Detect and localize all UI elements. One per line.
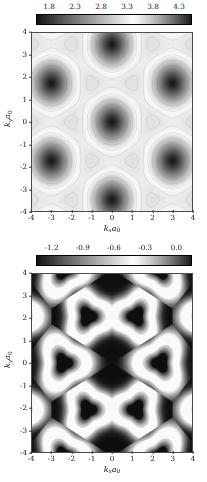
x-tick-label: 4 [191,454,196,464]
colorbar-ticklabels-bottom: -1.2-0.9-0.6-0.30.0 [36,242,192,254]
y-axis-label-bottom: kya0 [3,340,12,380]
heatmap-bottom [31,273,193,453]
x-tick-label: 2 [150,213,155,223]
y-tick-mark [29,453,32,454]
figure-panel-top: 1.82.32.83.33.84.3 -4-3-2-101234 43210-1… [0,0,207,241]
colorbar-tick-label: 0.0 [171,242,182,253]
colorbar-tick-label: -0.3 [138,242,152,253]
y-tick-mark [29,32,32,33]
y-tick-label: -3 [20,427,27,435]
y-tick-label: 1 [22,337,27,345]
x-tick-label: -3 [48,454,55,464]
y-axis-label-sub-bottom: y [7,360,13,363]
x-tick-label: -3 [48,213,55,223]
y-tick-mark [29,318,32,319]
y-tick-mark [29,77,32,78]
y-tick-mark [29,189,32,190]
x-tick-label: 1 [130,454,135,464]
figure-panel-bottom: -1.2-0.9-0.6-0.30.0 -4-3-2-101234 43210-… [0,241,207,482]
colorbar-tick-label: -1.2 [45,242,59,253]
colorbar-gradient-bottom [36,255,192,266]
y-tick-label: -3 [20,186,27,194]
plot-area-bottom [31,273,193,453]
colorbar-tick-label: 2.8 [95,1,106,12]
x-axis-label-a-sub-top: 0 [117,227,121,233]
x-tick-label: 0 [110,213,115,223]
y-tick-mark [29,99,32,100]
y-tick-mark [29,167,32,168]
colorbar-gradient-top [36,14,192,25]
y-tick-mark [29,144,32,145]
y-tick-label: -4 [20,208,27,216]
colorbar-tick-label: -0.6 [107,242,121,253]
x-tick-label: -2 [68,213,75,223]
y-tick-mark [29,385,32,386]
y-tick-mark [29,430,32,431]
colorbar-top [36,14,192,25]
y-tick-label: 2 [22,73,27,81]
colorbar-ticklabels-top: 1.82.32.83.33.84.3 [36,1,192,13]
y-tick-label: 1 [22,96,27,104]
colorbar-tick-label: 1.8 [43,1,54,12]
colorbar-tick-label: 3.3 [121,1,132,12]
x-tick-label: -1 [88,213,95,223]
y-tick-label: 3 [22,292,27,300]
y-tick-mark [29,273,32,274]
y-tick-label: -1 [20,141,27,149]
x-tick-label: 4 [191,213,196,223]
y-axis-label-a-bottom: a [3,355,12,360]
y-axis-ticks-bottom: 43210-1-2-3-4 [13,273,29,453]
x-axis-label-top: kxa0 [31,224,193,233]
x-tick-label: -2 [68,454,75,464]
y-tick-label: 4 [22,28,27,36]
y-tick-mark [29,212,32,213]
y-tick-mark [29,340,32,341]
y-tick-mark [29,363,32,364]
colorbar-tick-label: 4.3 [173,1,184,12]
y-tick-label: 0 [22,118,27,126]
x-tick-label: 3 [170,213,175,223]
x-tick-label: -1 [88,454,95,464]
y-tick-label: 2 [22,314,27,322]
colorbar-tick-label: 3.8 [147,1,158,12]
colorbar-bottom [36,255,192,266]
x-tick-label: 3 [170,454,175,464]
x-tick-label: 1 [130,213,135,223]
y-axis-label-a-top: a [3,114,12,119]
x-tick-label: 0 [110,454,115,464]
y-tick-mark [29,122,32,123]
y-axis-label-text-bottom: k [3,363,12,368]
y-axis-label-text-top: k [3,122,12,127]
y-tick-label: -4 [20,449,27,457]
y-tick-mark [29,295,32,296]
y-axis-label-sub-top: y [7,119,13,122]
y-tick-mark [29,54,32,55]
y-axis-ticks-top: 43210-1-2-3-4 [13,32,29,212]
x-tick-label: -4 [27,213,34,223]
y-axis-label-top: kya0 [3,99,12,139]
y-axis-label-a-sub-top: 0 [7,110,13,114]
colorbar-tick-label: 2.3 [69,1,80,12]
heatmap-top [31,32,193,212]
y-tick-label: -1 [20,382,27,390]
x-tick-label: 2 [150,454,155,464]
y-tick-label: -2 [20,404,27,412]
plot-area-top [31,32,193,212]
y-tick-label: 4 [22,269,27,277]
y-tick-label: 0 [22,359,27,367]
y-tick-mark [29,408,32,409]
colorbar-tick-label: -0.9 [76,242,90,253]
y-tick-label: -2 [20,163,27,171]
x-axis-label-bottom: kxa0 [31,465,193,474]
y-axis-label-a-sub-bottom: 0 [7,351,13,355]
x-tick-label: -4 [27,454,34,464]
y-tick-label: 3 [22,51,27,59]
x-axis-label-a-sub-bottom: 0 [117,468,121,474]
